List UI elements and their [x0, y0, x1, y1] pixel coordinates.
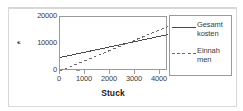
- legend-label-gesamtkosten: Gesamtkosten: [197, 20, 231, 38]
- y-tick-label-20000: 20000: [23, 12, 57, 20]
- x-axis-ticks: 0 1000 2000 3000 4000: [59, 70, 167, 86]
- series-line-gesamtkosten: [60, 35, 168, 58]
- legend-label-gesamtkosten-line2: kosten: [197, 29, 219, 38]
- plot-area: [59, 16, 167, 70]
- legend-item-einnahmen[interactable]: Einnahmen: [172, 46, 231, 70]
- y-tick-label-0: 0: [23, 66, 57, 74]
- x-axis-title: Stuck: [59, 88, 167, 98]
- series-line-einnahmen: [60, 26, 168, 71]
- legend-label-einnahmen: Einnahmen: [197, 46, 231, 64]
- y-tick-label-10000: 10000: [23, 39, 57, 47]
- legend-dashed-line-icon: [172, 50, 196, 57]
- legend-item-gesamtkosten[interactable]: Gesamtkosten: [172, 20, 231, 44]
- legend-label-einnahmen-line1: Einnah: [197, 46, 220, 55]
- chart-legend: Gesamtkosten Einnahmen: [169, 15, 232, 76]
- x-tick-label-1000: 1000: [76, 75, 92, 83]
- x-tick-label-3000: 3000: [126, 75, 142, 83]
- legend-label-gesamtkosten-line1: Gesamt: [197, 20, 223, 29]
- chart-screenshot: € 20000 10000 0 0 1000 2000 3000 4000 St…: [0, 0, 243, 111]
- legend-solid-line-icon: [172, 24, 196, 31]
- x-tick-label-0: 0: [57, 75, 61, 83]
- legend-label-einnahmen-line2: men: [197, 55, 211, 64]
- y-axis-ticks: 20000 10000 0: [21, 0, 57, 111]
- x-tick-label-2000: 2000: [101, 75, 117, 83]
- series-lines: [60, 17, 168, 71]
- x-tick-label-4000: 4000: [151, 75, 167, 83]
